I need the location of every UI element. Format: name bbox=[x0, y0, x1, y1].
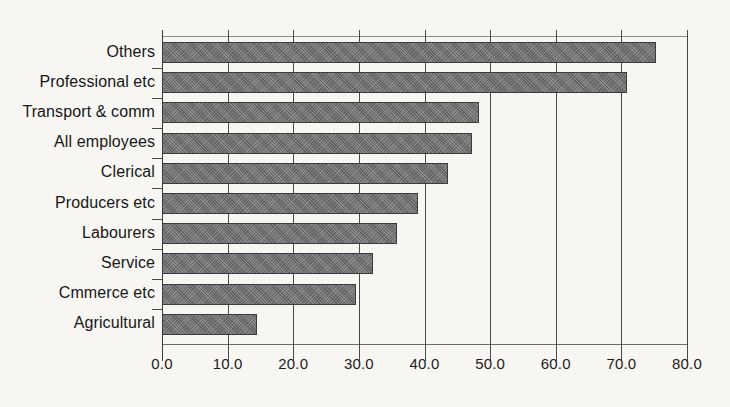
y-tick-mark bbox=[152, 128, 162, 129]
category-label: Labourers bbox=[0, 224, 155, 242]
bar bbox=[162, 163, 448, 184]
x-tick-label: 50.0 bbox=[475, 355, 505, 372]
bar bbox=[162, 223, 397, 244]
bar bbox=[162, 284, 356, 305]
bar bbox=[162, 314, 257, 335]
x-tick-label: 40.0 bbox=[410, 355, 440, 372]
x-tick-label: 20.0 bbox=[278, 355, 308, 372]
x-tick-label: 30.0 bbox=[344, 355, 374, 372]
category-label: Producers etc bbox=[0, 194, 155, 212]
category-label: Cmmerce etc bbox=[0, 284, 155, 302]
x-tick-label: 10.0 bbox=[213, 355, 243, 372]
bar-row: Professional etc bbox=[0, 72, 730, 93]
x-tick-label: 0.0 bbox=[151, 355, 172, 372]
bar-chart: 0.010.020.030.040.050.060.070.080.0 Othe… bbox=[0, 0, 730, 407]
y-tick-mark bbox=[152, 279, 162, 280]
bar-row: Producers etc bbox=[0, 193, 730, 214]
y-tick-mark bbox=[152, 249, 162, 250]
y-tick-mark bbox=[152, 309, 162, 310]
y-tick-mark bbox=[152, 68, 162, 69]
bar bbox=[162, 42, 656, 63]
y-tick-mark bbox=[152, 188, 162, 189]
y-tick-mark bbox=[152, 219, 162, 220]
bar-row: Service bbox=[0, 253, 730, 274]
x-tick-label: 60.0 bbox=[541, 355, 571, 372]
category-label: Professional etc bbox=[0, 73, 155, 91]
bar-row: Labourers bbox=[0, 223, 730, 244]
x-tick-label: 80.0 bbox=[672, 355, 702, 372]
x-tick-label: 70.0 bbox=[606, 355, 636, 372]
category-label: Others bbox=[0, 43, 155, 61]
category-label: Service bbox=[0, 254, 155, 272]
bar-row: Agricultural bbox=[0, 314, 730, 335]
category-label: Clerical bbox=[0, 163, 155, 181]
bar-row: Others bbox=[0, 42, 730, 63]
category-label: All employees bbox=[0, 133, 155, 151]
bar-row: All employees bbox=[0, 133, 730, 154]
bar bbox=[162, 133, 472, 154]
bar bbox=[162, 72, 627, 93]
bar bbox=[162, 193, 418, 214]
bar-row: Clerical bbox=[0, 163, 730, 184]
bar-row: Transport & comm bbox=[0, 102, 730, 123]
y-tick-mark bbox=[152, 98, 162, 99]
category-label: Transport & comm bbox=[0, 103, 155, 121]
bar bbox=[162, 253, 373, 274]
bar-row: Cmmerce etc bbox=[0, 284, 730, 305]
bar bbox=[162, 102, 479, 123]
y-tick-mark bbox=[152, 158, 162, 159]
category-label: Agricultural bbox=[0, 314, 155, 332]
